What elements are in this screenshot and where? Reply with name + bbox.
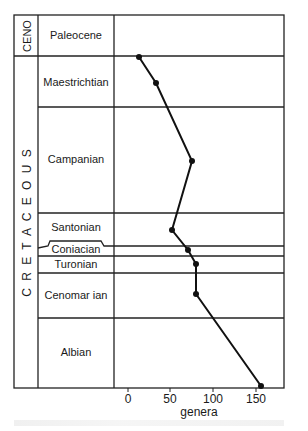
data-points xyxy=(136,54,264,389)
genera-stratigraphic-chart: CENO C R E T A C E O U S Paleocene Maest… xyxy=(0,0,308,431)
stage-label-turonian: Turonian xyxy=(54,258,97,270)
x-axis-label: genera xyxy=(180,405,218,419)
data-point xyxy=(169,227,175,233)
data-point xyxy=(153,80,159,86)
x-tick-label: 0 xyxy=(125,392,132,406)
era-label-cretaceous: C R E T A C E O U S xyxy=(20,147,34,297)
stage-label-santonian: Santonian xyxy=(51,221,101,233)
stage-label-paleocene: Paleocene xyxy=(50,29,102,41)
stage-label-cenomanian: Cenomar ian xyxy=(45,289,108,301)
data-point xyxy=(193,291,199,297)
figure-caption-cutoff xyxy=(14,420,284,426)
x-tick-label: 150 xyxy=(246,392,266,406)
data-point xyxy=(136,54,142,60)
data-point xyxy=(185,247,191,253)
stage-label-maestrichtian: Maestrichtian xyxy=(43,76,108,88)
stage-label-campanian: Campanian xyxy=(48,153,104,165)
stage-label-albian: Albian xyxy=(61,346,92,358)
x-tick-label: 50 xyxy=(163,392,177,406)
x-tick-label: 100 xyxy=(203,392,223,406)
data-point xyxy=(193,261,199,267)
data-point xyxy=(258,383,264,389)
stage-label-coniacian: Coniacian xyxy=(52,243,101,255)
era-label-ceno: CENO xyxy=(21,20,33,52)
data-point xyxy=(189,158,195,164)
